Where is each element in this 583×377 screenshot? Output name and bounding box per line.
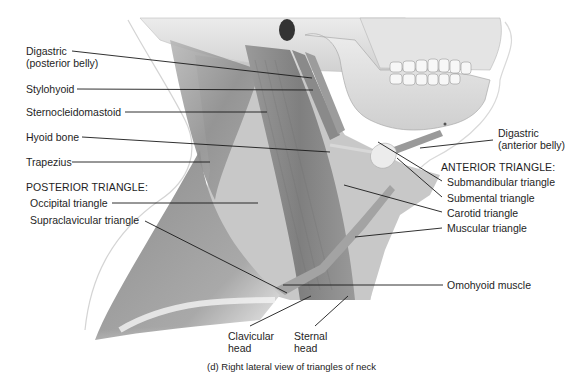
label-sternocleidomastoid: Sternocleidomastoid <box>26 106 121 118</box>
heading-anterior-triangle: ANTERIOR TRIANGLE: <box>441 161 555 173</box>
label-digastric-posterior-2: (posterior belly) <box>26 57 98 69</box>
label-omohyoid-muscle: Omohyoid muscle <box>447 279 531 291</box>
label-sternal-head-2: head <box>294 342 317 354</box>
figure-caption: (d) Right lateral view of triangles of n… <box>0 361 583 372</box>
label-submandibular-triangle: Submandibular triangle <box>447 176 555 188</box>
neck-triangles-figure: Digastric (posterior belly) Stylohyoid S… <box>0 0 583 377</box>
label-supraclavicular-triangle: Supraclavicular triangle <box>30 214 139 226</box>
mental-foramen <box>444 123 447 126</box>
label-muscular-triangle: Muscular triangle <box>447 222 527 234</box>
label-occipital-triangle: Occipital triangle <box>30 197 108 209</box>
label-clavicular-head-2: head <box>228 342 251 354</box>
label-trapezius: Trapezius <box>26 156 72 168</box>
label-hyoid-bone: Hyoid bone <box>26 131 79 143</box>
label-clavicular-head-1: Clavicular <box>228 330 274 342</box>
label-digastric-anterior-1: Digastric <box>498 127 539 139</box>
heading-posterior-triangle: POSTERIOR TRIANGLE: <box>26 181 148 193</box>
label-stylohyoid: Stylohyoid <box>26 83 74 95</box>
label-submental-triangle: Submental triangle <box>447 192 535 204</box>
ear-canal <box>279 19 295 41</box>
label-carotid-triangle: Carotid triangle <box>447 207 518 219</box>
label-sternal-head-1: Sternal <box>294 330 327 342</box>
label-digastric-posterior-1: Digastric <box>26 45 67 57</box>
label-digastric-anterior-2: (anterior belly) <box>498 139 565 151</box>
